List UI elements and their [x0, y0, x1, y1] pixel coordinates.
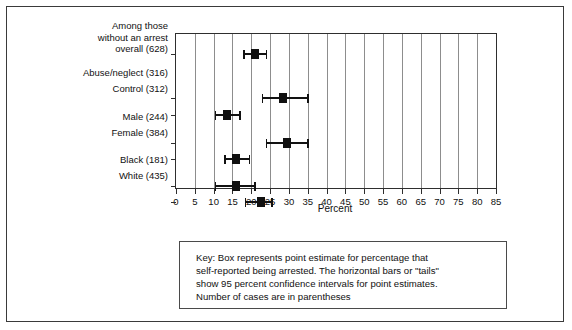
category-label-line: overall (628)	[98, 43, 168, 55]
ci-lower-cap	[243, 50, 245, 59]
ci-lower-cap	[262, 94, 264, 103]
ci-row	[176, 91, 496, 105]
key-legend-text: Key: Box represents point estimate for p…	[196, 251, 496, 303]
category-label: Abuse/neglect (316)	[83, 67, 168, 78]
point-estimate-box	[232, 154, 240, 164]
key-line: self-reported being arrested. The horizo…	[196, 264, 496, 277]
point-estimate-box	[279, 93, 287, 103]
point-estimate-box	[223, 110, 231, 120]
ci-row	[176, 179, 496, 193]
ci-upper-cap	[307, 94, 309, 103]
category-label: Male (244)	[123, 111, 168, 122]
x-axis-title: Percent	[175, 203, 495, 214]
ci-lower-cap	[224, 155, 226, 164]
ci-row	[176, 47, 496, 61]
ci-row	[176, 152, 496, 166]
category-label-line: without an arrest	[98, 32, 168, 44]
ci-upper-cap	[266, 50, 268, 59]
key-line: show 95 percent confidence intervals for…	[196, 277, 496, 290]
ci-upper-cap	[254, 182, 256, 191]
key-line: Number of cases are in parentheses	[196, 290, 496, 303]
point-estimate-box	[251, 49, 259, 59]
category-label-line: Female (384)	[112, 127, 169, 138]
ci-lower-cap	[215, 111, 217, 120]
category-label-line: Male (244)	[123, 111, 168, 122]
plot-area: 0510152025303540455055606570758085	[175, 33, 497, 189]
ci-upper-cap	[307, 139, 309, 148]
category-label: White (435)	[119, 170, 168, 181]
category-label-line: Control (312)	[113, 83, 168, 94]
category-label: Among thosewithout an arrestoverall (628…	[98, 20, 168, 55]
ci-upper-cap	[239, 111, 241, 120]
x-axis-tick	[496, 189, 497, 194]
ci-row	[176, 136, 496, 150]
ci-lower-cap	[266, 139, 268, 148]
key-legend-box: Key: Box represents point estimate for p…	[179, 241, 507, 309]
ci-lower-cap	[215, 182, 217, 191]
point-estimate-box	[232, 181, 240, 191]
confidence-interval-chart: Among thosewithout an arrestoverall (628…	[7, 7, 565, 217]
category-label-line: Among those	[98, 20, 168, 32]
category-label-line: Abuse/neglect (316)	[83, 67, 168, 78]
category-label: Female (384)	[112, 127, 169, 138]
key-line: Key: Box represents point estimate for p…	[196, 251, 496, 264]
ci-upper-cap	[249, 155, 251, 164]
category-label-line: Black (181)	[120, 154, 168, 165]
category-axis-labels: Among thosewithout an arrestoverall (628…	[7, 15, 174, 185]
category-label: Control (312)	[113, 83, 168, 94]
point-estimate-box	[283, 138, 291, 148]
category-label-line: White (435)	[119, 170, 168, 181]
ci-row	[176, 108, 496, 122]
figure-frame: Among thosewithout an arrestoverall (628…	[6, 6, 564, 322]
category-label: Black (181)	[120, 154, 168, 165]
